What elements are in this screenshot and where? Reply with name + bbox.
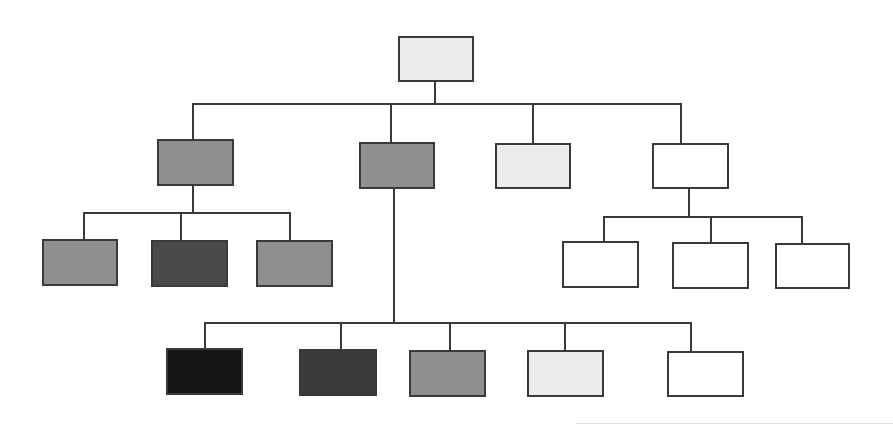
connector-to-l2-d2: [710, 216, 712, 243]
connector-root-bus: [192, 103, 681, 105]
node-l2-b2: [299, 349, 377, 396]
connector-to-l2-b1: [204, 322, 206, 349]
node-l2-b4: [527, 350, 604, 397]
connector-to-l1-c: [532, 103, 534, 144]
connector-to-l2-b2: [340, 322, 342, 350]
connector-to-l2-b3: [449, 322, 451, 351]
connector-l1-a-bus: [83, 212, 291, 214]
connector-to-l2-a3: [289, 212, 291, 241]
node-l2-a3: [256, 240, 333, 287]
connector-root-down: [434, 81, 436, 104]
connector-l1-d-bus: [603, 216, 803, 218]
connector-l1-a-down: [192, 185, 194, 213]
node-l1-d: [652, 143, 729, 189]
org-chart-diagram: [0, 0, 893, 427]
connector-to-l1-a: [192, 103, 194, 140]
connector-to-l2-d3: [801, 216, 803, 244]
node-l2-a1: [42, 239, 118, 286]
node-l2-b1: [166, 348, 243, 395]
node-l1-a: [157, 139, 234, 186]
connector-to-l2-d1: [603, 216, 605, 242]
connector-to-l1-d: [680, 103, 682, 144]
scan-edge-line: [575, 423, 893, 424]
node-l1-c: [495, 143, 571, 189]
connector-to-l1-b: [390, 103, 392, 143]
node-root: [398, 36, 474, 82]
node-l2-d3: [775, 243, 850, 289]
connector-to-l2-b4: [564, 322, 566, 351]
node-l2-d1: [562, 241, 639, 288]
connector-to-l2-a1: [83, 212, 85, 240]
node-l2-d2: [672, 242, 749, 289]
node-l2-b3: [409, 350, 486, 397]
node-l2-b5: [667, 351, 744, 397]
connector-to-l2-a2: [180, 212, 182, 241]
node-l1-b: [359, 142, 435, 189]
connector-l1-b-down: [393, 188, 395, 324]
connector-l1-b-bus: [204, 322, 691, 324]
node-l2-a2: [151, 240, 228, 287]
connector-to-l2-b5: [690, 322, 692, 352]
connector-l1-d-down: [688, 188, 690, 217]
